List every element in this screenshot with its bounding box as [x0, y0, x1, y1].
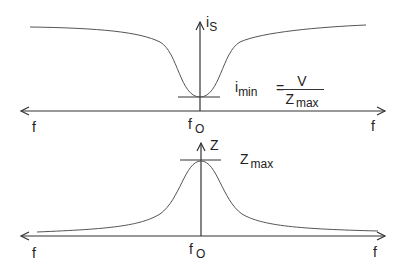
- top-x-axis-right-label: f: [371, 119, 375, 133]
- bottom-y-axis-label: Z: [210, 138, 219, 152]
- formula-numerator: V: [280, 74, 324, 89]
- top-y-axis-label: iS: [206, 15, 217, 29]
- bottom-center-frequency-label: fO: [189, 242, 205, 256]
- bottom-x-axis-left-label: f: [32, 246, 36, 260]
- bottom-diagram: [21, 143, 385, 240]
- impedance-peak-curve: [37, 161, 378, 232]
- bottom-x-axis-right-label: f: [373, 245, 377, 259]
- top-diagram: [21, 22, 385, 115]
- top-x-axis-left-label: f: [32, 120, 36, 134]
- formula-fraction: V Zmax: [280, 74, 324, 110]
- formula-denominator: Zmax: [280, 89, 324, 110]
- formula-lhs: imin: [235, 80, 257, 94]
- top-center-frequency-label: fO: [188, 117, 204, 131]
- zmax-label: Zmax: [240, 152, 273, 166]
